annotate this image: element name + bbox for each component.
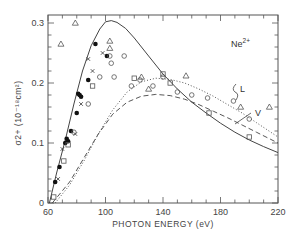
theory-curves: [49, 21, 278, 203]
x-tick-label: 60: [43, 207, 53, 217]
data-point-open-circle: [122, 54, 127, 59]
data-point-open-triangle: [58, 41, 64, 46]
data-point-open-circle: [109, 61, 114, 66]
data-point-filled-circle: [74, 111, 79, 116]
data-point-open-circle: [112, 75, 117, 80]
ion-annotation: Ne2+: [231, 37, 250, 49]
y-tick-label: 0.1: [31, 138, 44, 148]
data-point-filled-circle: [93, 42, 98, 47]
data-point-open-square: [52, 195, 56, 199]
data-point-cross: [56, 177, 60, 181]
data-point-open-circle: [86, 102, 91, 107]
data-point-open-triangle: [183, 73, 189, 78]
y-tick-label: 0.3: [31, 18, 44, 28]
y-tick-label: 0.2: [31, 78, 44, 88]
data-point-open-square: [247, 135, 251, 139]
curve-label-L: L: [240, 84, 245, 94]
data-point-filled-circle: [79, 95, 84, 100]
data-point-open-square: [62, 159, 66, 163]
data-point-open-triangle: [107, 45, 113, 50]
data-point-open-triangle: [107, 38, 113, 43]
curve-V: [52, 94, 278, 203]
x-axis-title: PHOTON ENERGY (eV): [112, 219, 214, 229]
data-point-open-square: [132, 76, 136, 80]
data-point-open-triangle: [266, 104, 272, 109]
data-point-open-triangle: [238, 104, 244, 109]
data-point-open-circle: [97, 75, 102, 80]
data-point-filled-circle: [86, 78, 91, 83]
data-point-cross: [91, 69, 95, 73]
axis-ticks: 6010014018022000.10.20.3: [31, 15, 285, 217]
x-tick-label: 140: [155, 207, 170, 217]
data-point-open-circle: [161, 75, 166, 80]
data-point-filled-circle: [69, 129, 74, 134]
data-point-open-circle: [205, 96, 210, 101]
x-tick-label: 180: [213, 207, 228, 217]
cross-section-chart: 6010014018022000.10.20.3 Ne2+ PHOTON ENE…: [0, 0, 297, 240]
curve-L: [55, 78, 278, 203]
data-point-cross: [79, 102, 83, 106]
data-point-open-square: [90, 84, 94, 88]
curve-label-V: V: [255, 108, 261, 118]
data-point-open-circle: [151, 84, 156, 89]
data-point-open-circle: [138, 78, 143, 83]
x-tick-label: 220: [270, 207, 285, 217]
y-tick-label: 0: [39, 198, 44, 208]
y-axis-title: σ2+ (10⁻¹⁸cm²): [13, 81, 23, 146]
data-point-open-circle: [175, 90, 180, 95]
data-point-open-circle: [129, 84, 134, 89]
data-point-open-triangle: [72, 20, 78, 25]
x-tick-label: 100: [98, 207, 113, 217]
data-point-open-circle: [189, 93, 194, 98]
curve-solid: [49, 21, 278, 203]
data-point-filled-circle: [57, 165, 62, 170]
data-point-open-circle: [231, 99, 236, 104]
data-point-cross: [101, 51, 105, 55]
